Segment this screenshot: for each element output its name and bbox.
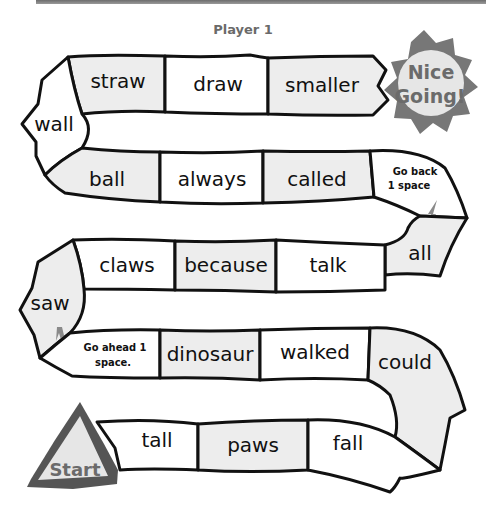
space-claws[interactable]: claws xyxy=(73,239,175,290)
instruction-line: Go back xyxy=(393,165,438,178)
space-label: claws xyxy=(99,253,155,277)
space-all[interactable]: all xyxy=(385,216,467,276)
space-dinosaur[interactable]: dinosaur xyxy=(160,330,260,380)
space-label: straw xyxy=(90,69,145,93)
space-talk[interactable]: talk xyxy=(276,240,385,292)
badge-label: Going! xyxy=(395,85,466,107)
space-label: always xyxy=(178,167,247,191)
space-label: walked xyxy=(280,340,350,364)
space-label: wall xyxy=(34,112,74,136)
space-label: dinosaur xyxy=(167,342,255,366)
space-label: called xyxy=(287,167,346,191)
space-smaller[interactable]: smaller xyxy=(268,56,388,115)
space-label: paws xyxy=(227,433,279,457)
finish-badge[interactable]: Nice Going! xyxy=(384,30,478,134)
space-label: ball xyxy=(89,167,125,191)
space-draw[interactable]: draw xyxy=(165,55,268,114)
space-label: because xyxy=(184,253,268,277)
space-because[interactable]: because xyxy=(175,240,276,292)
space-label: all xyxy=(408,241,431,265)
space-label: fall xyxy=(333,431,363,455)
instruction-line: Go ahead 1 xyxy=(84,341,147,354)
space-walked[interactable]: walked xyxy=(260,328,370,380)
space-label: tall xyxy=(141,428,172,452)
instruction-line: 1 space xyxy=(388,179,431,192)
space-label: smaller xyxy=(285,73,360,97)
instruction-line: space. xyxy=(95,356,131,369)
start-badge[interactable]: Start xyxy=(27,402,118,489)
badge-label: Start xyxy=(49,459,101,480)
badge-label: Nice xyxy=(408,61,455,83)
space-label: talk xyxy=(309,253,347,277)
space-label: saw xyxy=(30,291,69,315)
space-label: draw xyxy=(193,72,243,96)
space-label: could xyxy=(378,350,432,374)
space-paws[interactable]: paws xyxy=(198,420,308,472)
space-always[interactable]: always xyxy=(160,151,263,204)
space-straw[interactable]: straw xyxy=(68,55,165,114)
game-board: straw draw smaller wall ball always call… xyxy=(0,0,486,507)
space-called[interactable]: called xyxy=(263,151,374,203)
